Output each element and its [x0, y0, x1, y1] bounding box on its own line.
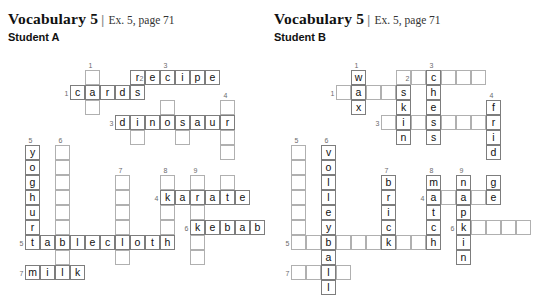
crossword-cell[interactable]: b	[220, 220, 235, 235]
crossword-cell[interactable]	[115, 190, 130, 205]
crossword-cell[interactable]: l	[321, 190, 336, 205]
crossword-cell[interactable]: i	[381, 205, 396, 220]
crossword-cell[interactable]: l	[70, 235, 85, 250]
crossword-cell[interactable]	[190, 205, 205, 220]
crossword-cell[interactable]	[190, 250, 205, 265]
crossword-cell[interactable]: a	[351, 85, 366, 100]
crossword-cell[interactable]	[190, 235, 205, 250]
crossword-cell[interactable]: g	[25, 175, 40, 190]
crossword-cell[interactable]: s	[426, 130, 441, 145]
crossword-cell[interactable]: t	[25, 235, 40, 250]
crossword-cell[interactable]: i	[486, 130, 501, 145]
crossword-cell[interactable]: b	[250, 220, 265, 235]
crossword-cell[interactable]	[456, 70, 471, 85]
crossword-cell[interactable]	[291, 205, 306, 220]
crossword-cell[interactable]: k	[160, 190, 175, 205]
crossword-cell[interactable]	[55, 250, 70, 265]
crossword-cell[interactable]	[411, 115, 426, 130]
crossword-cell[interactable]: b	[321, 235, 336, 250]
crossword-cell[interactable]: c	[426, 70, 441, 85]
crossword-cell[interactable]	[85, 70, 100, 85]
crossword-cell[interactable]: m	[426, 175, 441, 190]
crossword-cell[interactable]	[501, 220, 516, 235]
crossword-cell[interactable]	[306, 235, 321, 250]
crossword-cell[interactable]: s	[396, 85, 411, 100]
crossword-cell[interactable]: t	[220, 190, 235, 205]
crossword-cell[interactable]	[55, 175, 70, 190]
crossword-cell[interactable]: r	[381, 190, 396, 205]
crossword-cell[interactable]	[55, 205, 70, 220]
crossword-cell[interactable]: h	[25, 190, 40, 205]
crossword-cell[interactable]: a	[205, 190, 220, 205]
crossword-cell[interactable]	[381, 85, 396, 100]
crossword-cell[interactable]: m	[25, 265, 40, 280]
crossword-cell[interactable]: k	[190, 220, 205, 235]
crossword-cell[interactable]: a	[85, 85, 100, 100]
crossword-cell[interactable]	[441, 70, 456, 85]
crossword-cell[interactable]: c	[100, 235, 115, 250]
crossword-cell[interactable]	[220, 100, 235, 115]
crossword-cell[interactable]: h	[426, 85, 441, 100]
crossword-cell[interactable]: e	[426, 100, 441, 115]
crossword-cell[interactable]: a	[235, 220, 250, 235]
crossword-cell[interactable]	[441, 190, 456, 205]
crossword-cell[interactable]: t	[145, 235, 160, 250]
crossword-cell[interactable]: n	[396, 130, 411, 145]
crossword-cell[interactable]: c	[70, 85, 85, 100]
crossword-cell[interactable]	[456, 115, 471, 130]
crossword-cell[interactable]	[291, 235, 306, 250]
crossword-grid-student-a[interactable]: recipecardsdinosauryoghkarateurkebabtabl…	[0, 0, 266, 254]
crossword-cell[interactable]: l	[115, 235, 130, 250]
crossword-cell[interactable]: c	[426, 220, 441, 235]
crossword-cell[interactable]	[115, 220, 130, 235]
crossword-cell[interactable]: e	[205, 220, 220, 235]
crossword-cell[interactable]: l	[321, 265, 336, 280]
crossword-cell[interactable]	[190, 175, 205, 190]
crossword-cell[interactable]	[115, 205, 130, 220]
crossword-cell[interactable]	[306, 265, 321, 280]
crossword-cell[interactable]: n	[456, 250, 471, 265]
crossword-cell[interactable]: l	[321, 280, 336, 295]
crossword-cell[interactable]: t	[426, 205, 441, 220]
crossword-cell[interactable]: y	[321, 220, 336, 235]
crossword-grid-student-b[interactable]: wcashxkefisrnsivdolbmnglraaeeitpycckbkhi…	[266, 0, 532, 254]
crossword-cell[interactable]	[366, 85, 381, 100]
crossword-cell[interactable]: s	[426, 115, 441, 130]
crossword-cell[interactable]: h	[160, 235, 175, 250]
crossword-cell[interactable]	[366, 235, 381, 250]
crossword-cell[interactable]: s	[175, 115, 190, 130]
crossword-cell[interactable]	[381, 115, 396, 130]
crossword-cell[interactable]: r	[220, 115, 235, 130]
crossword-cell[interactable]	[411, 235, 426, 250]
crossword-cell[interactable]: p	[456, 205, 471, 220]
crossword-cell[interactable]	[291, 265, 306, 280]
crossword-cell[interactable]	[160, 175, 175, 190]
crossword-cell[interactable]: g	[486, 175, 501, 190]
crossword-cell[interactable]: f	[486, 100, 501, 115]
crossword-cell[interactable]: u	[25, 205, 40, 220]
crossword-cell[interactable]: i	[40, 265, 55, 280]
crossword-cell[interactable]	[336, 265, 351, 280]
crossword-cell[interactable]: i	[396, 115, 411, 130]
crossword-cell[interactable]	[55, 190, 70, 205]
crossword-cell[interactable]: o	[25, 160, 40, 175]
crossword-cell[interactable]: e	[486, 190, 501, 205]
crossword-cell[interactable]: l	[55, 265, 70, 280]
crossword-cell[interactable]	[291, 190, 306, 205]
crossword-cell[interactable]	[55, 220, 70, 235]
crossword-cell[interactable]: o	[160, 115, 175, 130]
crossword-cell[interactable]: p	[190, 70, 205, 85]
crossword-cell[interactable]: e	[85, 235, 100, 250]
crossword-cell[interactable]: i	[175, 70, 190, 85]
crossword-cell[interactable]	[471, 190, 486, 205]
crossword-cell[interactable]	[411, 70, 426, 85]
crossword-cell[interactable]: r	[25, 220, 40, 235]
crossword-cell[interactable]: d	[486, 145, 501, 160]
crossword-cell[interactable]: x	[351, 100, 366, 115]
crossword-cell[interactable]	[220, 130, 235, 145]
crossword-cell[interactable]: a	[175, 190, 190, 205]
crossword-cell[interactable]: h	[426, 235, 441, 250]
crossword-cell[interactable]: k	[70, 265, 85, 280]
crossword-cell[interactable]	[516, 220, 531, 235]
crossword-cell[interactable]	[441, 115, 456, 130]
